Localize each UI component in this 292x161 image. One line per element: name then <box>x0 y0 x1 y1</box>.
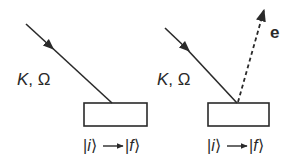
label-separator: , <box>28 70 37 89</box>
frequency-symbol: Ω <box>178 70 191 89</box>
initial-ket: |i⟩ <box>207 137 221 154</box>
incoming-photon-line-tail <box>48 44 112 103</box>
panel-photoemission: K, Ω e |i⟩ |f⟩ <box>157 10 279 154</box>
wavevector-symbol: K <box>157 70 169 89</box>
initial-state-symbol: i <box>211 137 215 154</box>
transition-label: |i⟩ |f⟩ <box>207 137 264 154</box>
initial-state-symbol: i <box>87 137 91 154</box>
sample-box <box>84 103 147 126</box>
panel-absorption: K, Ω |i⟩ |f⟩ <box>17 24 147 154</box>
sample-box <box>208 103 269 126</box>
final-ket: |f⟩ <box>125 137 140 154</box>
final-state-symbol: f <box>129 137 135 154</box>
initial-ket: |i⟩ <box>83 137 97 154</box>
electron-label: e <box>270 23 279 42</box>
transition-label: |i⟩ |f⟩ <box>83 137 140 154</box>
final-ket: |f⟩ <box>249 137 264 154</box>
incoming-photon-label: K, Ω <box>17 70 51 89</box>
incoming-photon-line-tail <box>184 46 237 103</box>
incoming-photon-label: K, Ω <box>157 70 191 89</box>
wavevector-symbol: K <box>17 70 29 89</box>
emitted-electron-line <box>238 10 264 102</box>
incoming-photon-line <box>26 24 50 46</box>
final-state-symbol: f <box>253 137 259 154</box>
incoming-photon-line <box>165 28 186 48</box>
label-separator: , <box>168 70 177 89</box>
frequency-symbol: Ω <box>38 70 51 89</box>
diagram-canvas: K, Ω |i⟩ |f⟩ K, Ω e |i⟩ |f⟩ <box>0 0 292 161</box>
